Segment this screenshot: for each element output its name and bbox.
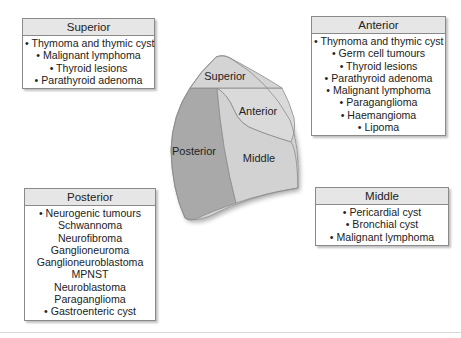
- list-item: • Parathyroid adenoma: [314, 72, 443, 84]
- list-item: Ganglioneuroblastoma: [27, 256, 153, 268]
- list-item: Neuroblastoma: [27, 281, 153, 293]
- list-item: • Thyroid lesions: [314, 60, 443, 72]
- anterior-list: • Thymoma and thymic cyst • Germ cell tu…: [312, 34, 445, 135]
- list-item: Neurofibroma: [27, 232, 153, 244]
- list-item: • Thyroid lesions: [25, 62, 152, 74]
- list-item: • Lipoma: [314, 121, 443, 133]
- list-item: • Parathyroid adenoma: [25, 74, 152, 86]
- list-item: • Neurogenic tumours: [27, 207, 153, 219]
- list-item: Schwannoma: [27, 219, 153, 231]
- list-item: • Haemangioma: [314, 109, 443, 121]
- label-middle: Middle: [243, 152, 275, 164]
- list-item: • Paraganglioma: [314, 96, 443, 108]
- anterior-box-title: Anterior: [312, 17, 445, 34]
- middle-box-title: Middle: [316, 188, 448, 205]
- list-item: • Malignant lymphoma: [25, 49, 152, 61]
- list-item: • Thymoma and thymic cyst: [314, 35, 443, 47]
- middle-list: • Pericardial cyst • Bronchial cyst • Ma…: [316, 205, 448, 245]
- label-superior: Superior: [204, 70, 246, 82]
- label-posterior: Posterior: [172, 145, 216, 157]
- list-item: • Malignant lymphoma: [318, 231, 446, 243]
- label-anterior: Anterior: [239, 105, 278, 117]
- list-item: Paraganglioma: [27, 293, 153, 305]
- superior-box-title: Superior: [23, 19, 154, 36]
- list-item: • Thymoma and thymic cyst: [25, 37, 152, 49]
- list-item: Ganglioneuroma: [27, 244, 153, 256]
- anterior-box: Anterior • Thymoma and thymic cyst • Ger…: [311, 16, 446, 136]
- posterior-box: Posterior • Neurogenic tumours Schwannom…: [24, 188, 156, 321]
- middle-box: Middle • Pericardial cyst • Bronchial cy…: [315, 187, 449, 246]
- bottom-divider: [0, 332, 461, 333]
- superior-box: Superior • Thymoma and thymic cyst • Mal…: [22, 18, 155, 89]
- posterior-box-title: Posterior: [25, 189, 155, 206]
- list-item: • Malignant lymphoma: [314, 84, 443, 96]
- list-item: • Gastroenteric cyst: [27, 305, 153, 317]
- list-item: MPNST: [27, 268, 153, 280]
- posterior-list: • Neurogenic tumours Schwannoma Neurofib…: [25, 206, 155, 320]
- list-item: • Germ cell tumours: [314, 47, 443, 59]
- superior-list: • Thymoma and thymic cyst • Malignant ly…: [23, 36, 154, 88]
- list-item: • Pericardial cyst: [318, 206, 446, 218]
- list-item: • Bronchial cyst: [318, 218, 446, 230]
